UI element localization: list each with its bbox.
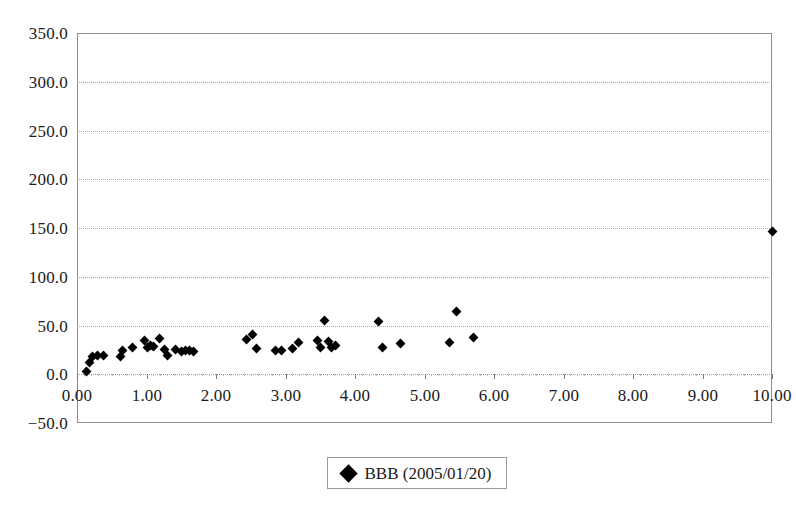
- x-minor-tick: [251, 374, 252, 376]
- x-tick-9: [703, 374, 704, 379]
- x-minor-tick: [536, 374, 537, 376]
- x-minor-tick: [570, 374, 571, 376]
- x-minor-tick: [737, 374, 738, 376]
- x-minor-tick: [119, 374, 120, 376]
- x-tick-0: [77, 374, 78, 379]
- x-minor-tick: [543, 374, 544, 376]
- x-minor-tick: [327, 374, 328, 376]
- x-minor-tick: [522, 374, 523, 376]
- diamond-marker-icon: [340, 464, 358, 482]
- x-minor-tick: [188, 374, 189, 376]
- x-minor-tick: [647, 374, 648, 376]
- x-minor-tick: [445, 374, 446, 376]
- x-minor-tick: [661, 374, 662, 376]
- x-tick-6: [494, 374, 495, 379]
- x-axis-label: 7.00: [529, 387, 599, 404]
- x-tick-3: [286, 374, 287, 379]
- x-axis-label: 3.00: [251, 387, 321, 404]
- y-axis-label: 250.0: [0, 123, 68, 140]
- x-minor-tick: [577, 374, 578, 376]
- chart-legend: BBB (2005/01/20): [327, 457, 507, 489]
- y-axis-label: −50.0: [0, 415, 68, 432]
- gridline-y-300: [77, 82, 772, 83]
- x-minor-tick: [591, 374, 592, 376]
- x-axis-label: 5.00: [390, 387, 460, 404]
- x-minor-tick: [105, 374, 106, 376]
- y-axis-label: 50.0: [0, 318, 68, 335]
- y-axis-label: 100.0: [0, 269, 68, 286]
- x-minor-tick: [265, 374, 266, 376]
- x-minor-tick: [320, 374, 321, 376]
- x-minor-tick: [689, 374, 690, 376]
- x-axis-label: 8.00: [598, 387, 668, 404]
- y-axis-label: 300.0: [0, 74, 68, 91]
- x-minor-tick: [550, 374, 551, 376]
- x-minor-tick: [682, 374, 683, 376]
- x-minor-tick: [160, 374, 161, 376]
- x-minor-tick: [480, 374, 481, 376]
- x-minor-tick: [466, 374, 467, 376]
- x-minor-tick: [306, 374, 307, 376]
- x-axis-label: 0.00: [42, 387, 112, 404]
- x-minor-tick: [668, 374, 669, 376]
- x-minor-tick: [515, 374, 516, 376]
- x-minor-tick: [258, 374, 259, 376]
- gridline-y-200: [77, 179, 772, 180]
- x-minor-tick: [244, 374, 245, 376]
- x-minor-tick: [723, 374, 724, 376]
- x-minor-tick: [376, 374, 377, 376]
- x-minor-tick: [716, 374, 717, 376]
- x-minor-tick: [174, 374, 175, 376]
- x-minor-tick: [709, 374, 710, 376]
- x-minor-tick: [765, 374, 766, 376]
- x-minor-tick: [640, 374, 641, 376]
- x-minor-tick: [98, 374, 99, 376]
- x-minor-tick: [598, 374, 599, 376]
- x-minor-tick: [508, 374, 509, 376]
- x-minor-tick: [397, 374, 398, 376]
- gridline-y-50: [77, 326, 772, 327]
- x-minor-tick: [411, 374, 412, 376]
- x-minor-tick: [696, 374, 697, 376]
- x-minor-tick: [501, 374, 502, 376]
- x-minor-tick: [209, 374, 210, 376]
- x-minor-tick: [140, 374, 141, 376]
- x-minor-tick: [605, 374, 606, 376]
- x-minor-tick: [758, 374, 759, 376]
- x-minor-tick: [223, 374, 224, 376]
- gridline-y-250: [77, 131, 772, 132]
- x-minor-tick: [195, 374, 196, 376]
- x-tick-10: [772, 374, 773, 379]
- x-minor-tick: [654, 374, 655, 376]
- x-minor-tick: [529, 374, 530, 376]
- x-minor-tick: [341, 374, 342, 376]
- x-minor-tick: [362, 374, 363, 376]
- y-axis-label: 350.0: [0, 25, 68, 42]
- x-minor-tick: [181, 374, 182, 376]
- x-minor-tick: [584, 374, 585, 376]
- x-minor-tick: [237, 374, 238, 376]
- x-minor-tick: [744, 374, 745, 376]
- x-minor-tick: [334, 374, 335, 376]
- x-axis-label: 2.00: [181, 387, 251, 404]
- x-axis-label: 9.00: [668, 387, 738, 404]
- x-tick-2: [216, 374, 217, 379]
- x-minor-tick: [313, 374, 314, 376]
- legend-label: BBB (2005/01/20): [364, 465, 491, 482]
- x-minor-tick: [272, 374, 273, 376]
- x-minor-tick: [487, 374, 488, 376]
- x-tick-5: [425, 374, 426, 379]
- gridline-y-150: [77, 228, 772, 229]
- x-minor-tick: [619, 374, 620, 376]
- y-axis-label: 200.0: [0, 171, 68, 188]
- y-axis-label: 150.0: [0, 220, 68, 237]
- x-minor-tick: [167, 374, 168, 376]
- x-minor-tick: [230, 374, 231, 376]
- x-minor-tick: [369, 374, 370, 376]
- x-minor-tick: [438, 374, 439, 376]
- x-minor-tick: [292, 374, 293, 376]
- x-minor-tick: [612, 374, 613, 376]
- x-minor-tick: [452, 374, 453, 376]
- x-tick-7: [564, 374, 565, 379]
